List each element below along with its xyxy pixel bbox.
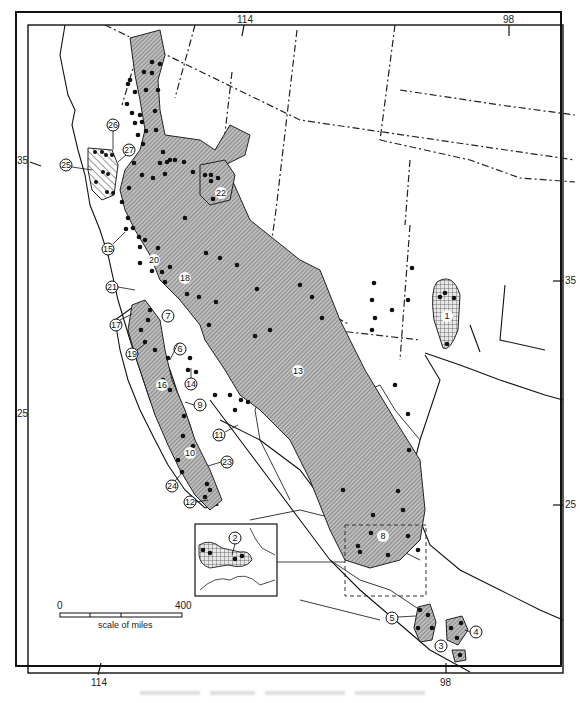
svg-text:11: 11 [214,430,223,440]
range-label-3: 3 [435,640,447,652]
range-label-25: 25 [60,159,72,171]
latitude-label-right-35: 35 [565,275,576,286]
longitude-label-top-98: 98 [503,14,514,25]
svg-text:26: 26 [108,120,118,130]
svg-text:8: 8 [380,531,385,541]
svg-text:22: 22 [216,188,226,198]
svg-text:20: 20 [149,255,159,265]
latitude-label-left-25: 25 [17,408,28,419]
svg-text:5: 5 [389,613,394,623]
range-label-8: 8 [377,530,389,542]
range-label-2: 2 [229,532,241,544]
range-label-10: 10 [184,447,196,459]
svg-text:7: 7 [165,311,170,321]
range-label-5: 5 [386,612,398,624]
range-label-1: 1 [441,310,453,322]
map-canvas: 1 2 3 4 5 6 7 8 9 10 11 12 13 14 15 16 1… [0,0,580,703]
scale-end-label: 400 [175,600,192,611]
range-label-16: 16 [156,379,168,391]
longitude-label-top-114: 114 [237,14,253,25]
range-label-21: 21 [106,281,118,293]
range-label-18: 18 [179,272,191,284]
range-label-7: 7 [162,310,174,322]
range-4-area [446,616,468,645]
svg-text:14: 14 [186,379,196,389]
svg-text:16: 16 [157,380,167,390]
latitude-label-left-35: 35 [17,155,28,166]
svg-text:10: 10 [185,448,195,458]
svg-text:3: 3 [438,641,443,651]
longitude-label-bottom-98: 98 [440,677,451,688]
range-label-22: 22 [215,187,227,199]
range-label-20: 20 [148,254,160,266]
svg-text:17: 17 [111,320,121,330]
svg-text:18: 18 [180,273,190,283]
svg-text:25: 25 [61,160,71,170]
svg-text:13: 13 [293,366,303,376]
range-label-24: 24 [166,480,178,492]
svg-text:23: 23 [222,457,232,467]
scale-unit-label: scale of miles [98,620,153,630]
range-label-11: 11 [213,429,225,441]
range-label-12: 12 [184,496,196,508]
svg-text:9: 9 [197,400,202,410]
scale-bar [60,613,182,617]
svg-text:6: 6 [177,344,182,354]
range-label-23: 23 [221,456,233,468]
range-label-14: 14 [185,378,197,390]
figure-caption-blurred [140,688,440,698]
range-label-19: 19 [126,348,138,360]
svg-text:15: 15 [103,244,113,254]
svg-text:2: 2 [232,533,237,543]
range-label-6: 6 [174,343,186,355]
svg-text:21: 21 [107,282,117,292]
longitude-label-bottom-114: 114 [91,677,107,688]
range-label-17: 17 [110,319,122,331]
svg-text:19: 19 [127,349,137,359]
range-label-4: 4 [470,626,482,638]
range-label-15: 15 [102,243,114,255]
svg-text:4: 4 [473,627,478,637]
range-label-9: 9 [194,399,206,411]
svg-text:24: 24 [167,481,177,491]
latitude-label-right-25: 25 [565,499,576,510]
range-label-13: 13 [292,365,304,377]
range-label-27: 27 [123,144,135,156]
svg-text:27: 27 [124,145,134,155]
svg-text:12: 12 [185,497,195,507]
range-5-area [414,604,436,642]
scale-start-label: 0 [57,600,63,611]
svg-text:1: 1 [444,311,449,321]
range-22-area [200,160,235,205]
range-label-26: 26 [107,119,119,131]
